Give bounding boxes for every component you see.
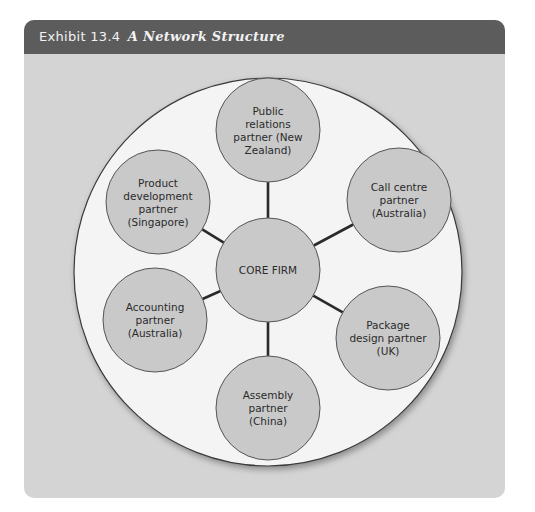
partner-node-call-centre-label-line: partner <box>380 194 420 206</box>
network-diagram: CORE FIRMPublicrelationspartner (NewZeal… <box>0 0 535 512</box>
core-firm-node-label-line: CORE FIRM <box>239 264 297 276</box>
partner-node-public-relations-label-line: Public <box>252 105 283 117</box>
partner-node-product-development-label-line: development <box>123 190 192 202</box>
partner-node-call-centre-label-line: (Australia) <box>372 207 427 219</box>
partner-node-accounting-label-line: Accounting <box>126 301 185 313</box>
partner-node-accounting-label-line: partner <box>136 314 176 326</box>
partner-node-package-design-label-line: (UK) <box>377 345 400 357</box>
partner-node-package-design-label-line: design partner <box>349 332 427 344</box>
partner-node-public-relations-label-line: Zealand) <box>245 144 292 156</box>
partner-node-package-design: Packagedesign partner(UK) <box>336 286 440 390</box>
partner-node-public-relations-label-line: relations <box>245 118 290 130</box>
partner-node-product-development-label-line: (Singapore) <box>127 216 188 228</box>
partner-node-call-centre-label-line: Call centre <box>371 181 428 193</box>
partner-node-product-development: Productdevelopmentpartner(Singapore) <box>106 150 210 254</box>
partner-node-public-relations-label-line: partner (New <box>233 131 303 143</box>
partner-node-assembly: Assemblypartner(China) <box>216 356 320 460</box>
partner-node-accounting: Accountingpartner(Australia) <box>103 268 207 372</box>
partner-node-product-development-label-line: Product <box>138 177 178 189</box>
partner-node-accounting-label-line: (Australia) <box>128 327 183 339</box>
core-firm-node: CORE FIRM <box>216 218 320 322</box>
partner-node-product-development-label-line: partner <box>139 203 179 215</box>
partner-node-package-design-label-line: Package <box>366 319 410 331</box>
partner-node-assembly-label-line: (China) <box>249 415 287 427</box>
partner-node-call-centre: Call centrepartner(Australia) <box>347 148 451 252</box>
partner-node-assembly-label-line: Assembly <box>243 389 294 401</box>
partner-node-assembly-label-line: partner <box>249 402 289 414</box>
partner-node-public-relations: Publicrelationspartner (NewZealand) <box>216 78 320 182</box>
